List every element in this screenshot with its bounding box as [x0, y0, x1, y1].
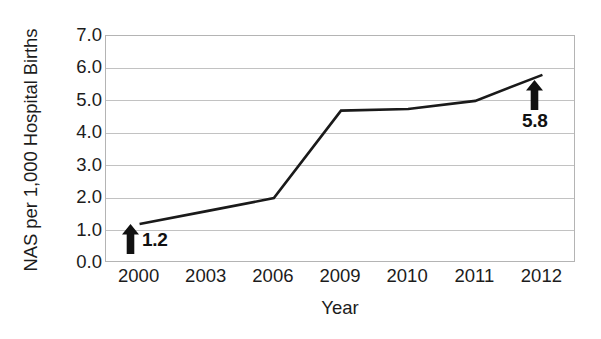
- up-arrow-icon: [526, 80, 543, 110]
- x-axis-title: Year: [105, 297, 575, 319]
- y-tick-label: 1.0: [56, 220, 102, 239]
- annotation-value-2000: 1.2: [142, 230, 168, 249]
- up-arrow-icon: [122, 224, 139, 254]
- y-tick-label: 0.0: [56, 253, 102, 272]
- y-tick-label: 7.0: [56, 26, 102, 45]
- x-tick-label: 2010: [372, 264, 442, 287]
- annotation-2000: 1.2: [122, 224, 168, 254]
- y-tick-label: 6.0: [56, 58, 102, 77]
- annotation-2012: 5.8: [522, 80, 548, 130]
- x-axis-tick-labels: 2000 2003 2006 2009 2010 2011 2012: [105, 264, 575, 290]
- x-tick-label: 2006: [238, 264, 308, 287]
- series-line: [106, 36, 576, 263]
- y-axis-title: NAS per 1,000 Hospital Births: [20, 15, 42, 285]
- y-axis-tick-labels: 7.0 6.0 5.0 4.0 3.0 2.0 1.0 0.0: [56, 35, 102, 262]
- plot-area: [105, 35, 575, 262]
- y-tick-label: 4.0: [56, 123, 102, 142]
- y-tick-label: 2.0: [56, 188, 102, 207]
- x-tick-label: 2012: [506, 264, 576, 287]
- y-tick-label: 5.0: [56, 91, 102, 110]
- x-tick-label: 2000: [104, 264, 174, 287]
- x-tick-label: 2009: [305, 264, 375, 287]
- annotation-value-2012: 5.8: [522, 111, 548, 130]
- y-tick-label: 3.0: [56, 155, 102, 174]
- nas-rate-line-chart: NAS per 1,000 Hospital Births 7.0 6.0 5.…: [0, 0, 601, 339]
- x-tick-label: 2003: [171, 264, 241, 287]
- x-tick-label: 2011: [439, 264, 509, 287]
